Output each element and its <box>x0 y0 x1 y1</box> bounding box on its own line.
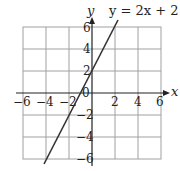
x-tick: 6 <box>156 95 164 109</box>
y-tick: −2 <box>76 108 94 122</box>
origin-label: 0 <box>82 86 90 100</box>
x-tick: 4 <box>134 95 142 109</box>
y-tick: 6 <box>83 21 91 35</box>
x-tick: −2 <box>59 95 77 109</box>
y-tick: −4 <box>76 130 94 144</box>
x-tick: 2 <box>111 95 119 109</box>
y-tick: −6 <box>76 152 94 166</box>
x-axis-label: x <box>171 84 179 99</box>
equation-label: y = 2x + 2 <box>108 3 179 18</box>
x-tick: −4 <box>36 95 54 109</box>
graph: y x y = 2x + 2 −6 −4 −2 2 4 6 0 6 4 2 −2… <box>0 0 180 171</box>
x-tick: −6 <box>13 95 31 109</box>
y-tick: 4 <box>83 42 91 56</box>
x-axis-arrow-icon <box>163 90 170 96</box>
y-axis-label: y <box>86 3 95 18</box>
y-tick: 2 <box>83 64 91 78</box>
